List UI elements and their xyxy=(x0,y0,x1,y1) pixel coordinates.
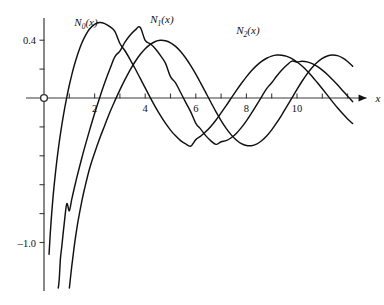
y-axis-tick-label: –1.0 xyxy=(17,238,36,249)
curve-n1x xyxy=(58,27,352,288)
x-axis-arrowhead xyxy=(359,95,367,102)
curve-n0x xyxy=(49,23,353,255)
x-axis-tick-label: 6 xyxy=(193,103,198,114)
y-axis-tick-label: 0.4 xyxy=(23,35,37,46)
axes-group xyxy=(26,18,367,291)
x-axis-tick-label: 10 xyxy=(292,103,303,114)
x-axis-tick-label: 8 xyxy=(244,103,249,114)
curve-label: N0(x) xyxy=(73,16,98,31)
curves-group xyxy=(49,23,353,288)
bessel-neumann-plot: 2468100.4–1.0N0(x)N1(x)N2(x)x xyxy=(0,0,384,305)
x-axis-tick-label: 4 xyxy=(143,103,149,114)
origin-marker xyxy=(41,95,48,102)
x-axis-label: x xyxy=(375,92,381,104)
curve-label: N1(x) xyxy=(149,13,174,28)
curve-label: N2(x) xyxy=(235,24,260,39)
labels-group: 2468100.4–1.0N0(x)N1(x)N2(x)x xyxy=(17,13,381,249)
curve-n2x xyxy=(69,40,352,288)
x-axis-tick-label: 2 xyxy=(92,103,97,114)
plot-canvas: 2468100.4–1.0N0(x)N1(x)N2(x)x xyxy=(0,0,384,305)
